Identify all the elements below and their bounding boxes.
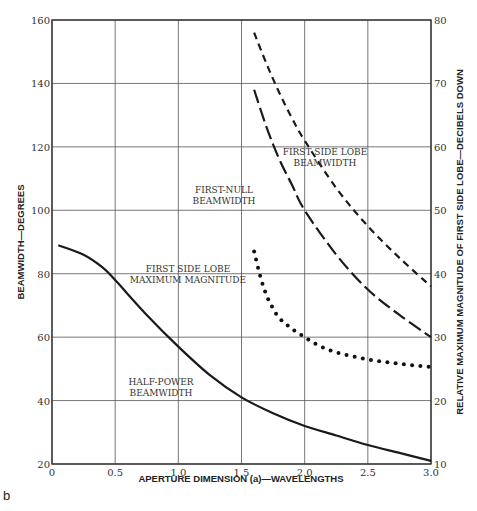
first-null-beamwidth-curve <box>254 90 431 337</box>
y-tick-label-right: 50 <box>434 205 447 216</box>
y-tick-label-right: 30 <box>434 332 447 343</box>
y-tick-label-left: 80 <box>37 269 50 280</box>
data-series <box>58 33 431 461</box>
first-side-lobe-maximum-magnitude-label: FIRST SIDE LOBE <box>146 264 231 274</box>
data-dot <box>270 305 274 309</box>
y-tick-label-left: 60 <box>37 332 50 343</box>
y-tick-label-left: 20 <box>37 459 50 470</box>
y-tick-label-left: 140 <box>31 78 50 89</box>
data-dot <box>299 333 303 337</box>
y-tick-label-right: 20 <box>434 396 447 407</box>
panel-label: b <box>3 488 10 503</box>
series-annotations: HALF-POWERBEAMWIDTHFIRST-NULLBEAMWIDTHFI… <box>128 147 367 398</box>
first-side-lobe-beamwidth-label: BEAMWIDTH <box>294 158 357 168</box>
y-tick-label-left: 160 <box>31 15 50 26</box>
beamwidth-chart: 00.51.01.52.02.53.0 20406080100120140160… <box>0 0 477 511</box>
data-dot <box>252 250 256 254</box>
y-tick-label-right: 80 <box>434 15 447 26</box>
first-side-lobe-beamwidth-label: FIRST SIDE LOBE <box>283 147 368 157</box>
y-axis-ticks-right: 1020304050607080 <box>434 15 447 470</box>
data-dot <box>402 362 406 366</box>
data-dot <box>266 297 270 301</box>
half-power-beamwidth-label: HALF-POWER <box>128 377 193 387</box>
data-dot <box>263 290 267 294</box>
data-dot <box>385 360 389 364</box>
data-dot <box>321 345 325 349</box>
first-null-beamwidth-label: BEAMWIDTH <box>193 196 256 206</box>
first-side-lobe-maximum-magnitude-curve <box>252 250 430 369</box>
x-axis-label: APERTURE DIMENSION (a)—WAVELENGTHS <box>138 473 343 484</box>
data-dot <box>336 351 340 355</box>
first-side-lobe-maximum-magnitude-label: MAXIMUM MAGNITUDE <box>130 275 246 285</box>
first-null-beamwidth-label: FIRST-NULL <box>195 185 253 195</box>
y-tick-label-right: 40 <box>434 269 447 280</box>
y-tick-label-right: 10 <box>434 459 447 470</box>
x-tick-label: 0.5 <box>107 467 123 478</box>
y-tick-label-right: 60 <box>434 142 447 153</box>
data-dot <box>254 258 258 262</box>
data-dot <box>258 274 262 278</box>
y-tick-label-left: 100 <box>31 205 50 216</box>
y-axis-label-left: BEAMWIDTH—DEGREES <box>15 184 26 299</box>
data-dot <box>279 318 283 322</box>
half-power-beamwidth-label: BEAMWIDTH <box>130 388 193 398</box>
data-dot <box>313 342 317 346</box>
data-dot <box>306 338 310 342</box>
data-dot <box>260 282 264 286</box>
data-dot <box>345 353 349 357</box>
data-dot <box>369 358 373 362</box>
data-dot <box>394 361 398 365</box>
data-dot <box>361 356 365 360</box>
y-tick-label-left: 120 <box>31 142 50 153</box>
data-dot <box>427 365 431 369</box>
data-dot <box>353 355 357 359</box>
y-tick-label-left: 40 <box>37 396 50 407</box>
data-dot <box>377 359 381 363</box>
x-tick-label: 2.5 <box>360 467 376 478</box>
y-axis-ticks-left: 20406080100120140160 <box>31 15 50 470</box>
data-dot <box>292 329 296 333</box>
y-tick-label-right: 70 <box>434 78 447 89</box>
data-dot <box>410 363 414 367</box>
data-dot <box>286 324 290 328</box>
data-dot <box>256 266 260 270</box>
data-dot <box>274 312 278 316</box>
data-dot <box>418 364 422 368</box>
y-axis-label-right: RELATIVE MAXIMUM MAGNITUDE OF FIRST SIDE… <box>454 69 465 415</box>
data-dot <box>329 349 333 353</box>
